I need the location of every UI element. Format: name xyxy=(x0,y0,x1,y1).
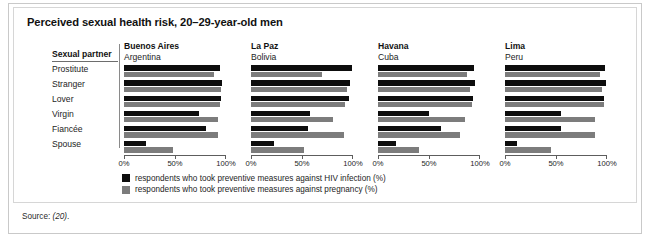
x-axis-tick-label: 50% xyxy=(548,159,563,168)
bar-hiv xyxy=(124,126,206,132)
x-axis-tick xyxy=(556,155,557,159)
bar-group-stranger xyxy=(378,79,480,94)
x-axis-tick-label: 0% xyxy=(119,159,130,168)
x-axis-tick xyxy=(225,155,226,159)
bar-group-virgin xyxy=(378,109,480,124)
bar-preg xyxy=(251,102,345,108)
bar-preg xyxy=(505,117,595,123)
bar-group-prostitute xyxy=(251,64,353,79)
bar-group-spouse xyxy=(251,139,353,154)
bar-hiv xyxy=(251,80,350,86)
bar-hiv xyxy=(251,96,349,102)
x-axis: 0%50%100% xyxy=(505,155,607,171)
row-label-prostitute: Prostitute xyxy=(52,62,118,77)
bar-group-stranger xyxy=(124,79,226,94)
row-header-sexual-partner: Sexual partner xyxy=(52,48,118,62)
legend-swatch-pregnancy-icon xyxy=(122,186,130,194)
bar-group-lover xyxy=(251,94,353,109)
bar-hiv xyxy=(505,65,605,71)
legend-item-pregnancy: respondents who took preventive measures… xyxy=(122,185,386,195)
bar-hiv xyxy=(124,65,220,71)
x-axis-tick xyxy=(479,155,480,159)
bar-preg xyxy=(251,87,347,93)
bar-group-lover xyxy=(378,94,480,109)
bar-preg xyxy=(251,132,344,138)
bar-group-prostitute xyxy=(124,64,226,79)
bar-group-prostitute xyxy=(378,64,480,79)
bar-hiv xyxy=(124,111,199,117)
bar-hiv xyxy=(378,141,396,147)
bar-hiv xyxy=(378,126,441,132)
row-label-lover: Lover xyxy=(52,92,118,107)
bar-hiv xyxy=(505,96,604,102)
bar-group-virgin xyxy=(124,109,226,124)
bar-preg xyxy=(124,72,214,78)
bar-preg xyxy=(124,87,221,93)
panel-country-label: Cuba xyxy=(378,52,496,63)
bar-preg xyxy=(505,87,602,93)
x-axis-tick xyxy=(124,155,125,159)
panel-city-label: La Paz xyxy=(251,41,369,52)
bar-hiv xyxy=(251,111,310,117)
bar-preg xyxy=(378,87,470,93)
bar-preg xyxy=(378,102,472,108)
x-axis: 0%50%100% xyxy=(124,155,226,171)
x-axis-tick-label: 100% xyxy=(216,159,235,168)
bar-preg xyxy=(251,72,322,78)
bar-preg xyxy=(505,147,551,153)
legend-label-pregnancy: respondents who took preventive measures… xyxy=(135,185,378,194)
bar-group-spouse xyxy=(378,139,480,154)
x-axis-tick-label: 50% xyxy=(421,159,436,168)
row-label-column: Sexual partner Prostitute Stranger Lover… xyxy=(52,48,118,153)
bar-hiv xyxy=(251,65,352,71)
plot-area: 0%50%100% xyxy=(505,64,607,155)
x-axis-tick-label: 0% xyxy=(500,159,511,168)
bar-group-virgin xyxy=(505,109,607,124)
label-plot-divider xyxy=(119,44,120,148)
panel-city-label: Buenos Aires xyxy=(124,41,242,52)
bar-group-prostitute xyxy=(505,64,607,79)
plot-area: 0%50%100% xyxy=(378,64,480,155)
x-axis-tick xyxy=(606,155,607,159)
source-note: Source: (20). xyxy=(22,212,69,221)
bar-preg xyxy=(378,132,460,138)
panel-country-label: Bolivia xyxy=(251,52,369,63)
panel-city-label: Havana xyxy=(378,41,496,52)
x-axis-tick xyxy=(378,155,379,159)
bar-hiv xyxy=(251,141,274,147)
bar-group-fiancée xyxy=(124,124,226,139)
panel-lima: LimaPeru0%50%100% xyxy=(505,41,623,155)
legend-item-hiv: respondents who took preventive measures… xyxy=(122,173,386,183)
plot-area: 0%50%100% xyxy=(251,64,353,155)
legend-label-hiv: respondents who took preventive measures… xyxy=(135,174,386,183)
x-axis: 0%50%100% xyxy=(378,155,480,171)
x-axis-tick xyxy=(352,155,353,159)
x-axis-tick xyxy=(175,155,176,159)
bar-group-virgin xyxy=(251,109,353,124)
panel-country-label: Argentina xyxy=(124,52,242,63)
bar-preg xyxy=(378,117,465,123)
x-axis-tick xyxy=(429,155,430,159)
bar-hiv xyxy=(505,141,517,147)
bar-preg xyxy=(124,102,220,108)
panel-country-label: Peru xyxy=(505,52,623,63)
bar-preg xyxy=(124,117,218,123)
bar-preg xyxy=(505,102,604,108)
bar-group-spouse xyxy=(505,139,607,154)
bar-hiv xyxy=(378,80,475,86)
bar-group-lover xyxy=(505,94,607,109)
chart-legend: respondents who took preventive measures… xyxy=(122,173,386,196)
bar-hiv xyxy=(505,126,561,132)
x-axis-tick xyxy=(505,155,506,159)
bar-hiv xyxy=(124,80,222,86)
chart-card: Perceived sexual health risk, 20–29-year… xyxy=(13,7,637,203)
bar-preg xyxy=(251,147,304,153)
x-axis-tick-label: 0% xyxy=(246,159,257,168)
bar-group-stranger xyxy=(251,79,353,94)
bar-group-lover xyxy=(124,94,226,109)
panel-buenos-aires: Buenos AiresArgentina0%50%100% xyxy=(124,41,242,155)
x-axis: 0%50%100% xyxy=(251,155,353,171)
bar-hiv xyxy=(124,96,221,102)
legend-swatch-hiv-icon xyxy=(122,174,130,182)
bar-preg xyxy=(251,117,333,123)
